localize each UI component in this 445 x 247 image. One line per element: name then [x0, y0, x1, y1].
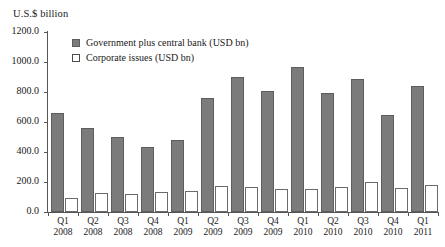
bar-government	[291, 67, 304, 212]
bar-government	[111, 137, 124, 212]
bar-corporate	[95, 193, 108, 212]
bar-government	[141, 147, 154, 212]
x-axis-label: Q32010	[348, 216, 378, 238]
y-axis-tick-label: 800.0	[17, 85, 40, 96]
bar-corporate	[305, 189, 318, 212]
x-axis-label-year: 2008	[48, 227, 78, 238]
x-axis-label-quarter: Q1	[288, 216, 318, 227]
bar-group	[291, 32, 318, 212]
x-axis-label-quarter: Q4	[378, 216, 408, 227]
x-axis-label: Q12010	[288, 216, 318, 238]
bar-corporate	[335, 187, 348, 213]
bar-government	[171, 140, 184, 212]
bar-government	[351, 79, 364, 212]
x-axis-label: Q22010	[318, 216, 348, 238]
bar-chart-figure: U.S.$ billion 0.0200.0400.0600.0800.0100…	[0, 0, 445, 247]
x-axis-label-year: 2008	[108, 227, 138, 238]
legend-item-government: Government plus central bank (USD bn)	[72, 36, 248, 49]
bar-corporate	[425, 185, 438, 212]
bar-corporate	[215, 186, 228, 212]
bar-government	[261, 91, 274, 212]
x-axis-label-year: 2010	[288, 227, 318, 238]
bar-government	[51, 113, 64, 212]
chart-legend: Government plus central bank (USD bn) Co…	[72, 36, 248, 66]
x-axis-label-quarter: Q2	[318, 216, 348, 227]
x-axis-label: Q12009	[168, 216, 198, 238]
x-axis-label-quarter: Q2	[78, 216, 108, 227]
bar-government	[411, 86, 424, 212]
bar-corporate	[155, 192, 168, 212]
bar-government	[321, 93, 334, 212]
x-axis-label-year: 2010	[318, 227, 348, 238]
x-axis-label-year: 2008	[138, 227, 168, 238]
x-axis-label-year: 2009	[198, 227, 228, 238]
legend-item-corporate: Corporate issues (USD bn)	[72, 51, 248, 64]
y-axis-tick-label: 200.0	[17, 175, 40, 186]
x-axis-label-quarter: Q3	[108, 216, 138, 227]
x-axis-label-quarter: Q3	[348, 216, 378, 227]
bar-group	[321, 32, 348, 212]
y-axis-caption: U.S.$ billion	[13, 8, 68, 19]
x-axis-label: Q42009	[258, 216, 288, 238]
y-axis-tick-label: 600.0	[17, 115, 40, 126]
x-axis-label: Q12008	[48, 216, 78, 238]
x-axis-label-quarter: Q1	[168, 216, 198, 227]
bar-government	[231, 77, 244, 212]
bar-group	[381, 32, 408, 212]
x-axis-label-quarter: Q4	[138, 216, 168, 227]
x-axis-label-year: 2010	[348, 227, 378, 238]
x-axis-label: Q42008	[138, 216, 168, 238]
x-axis-line	[47, 212, 438, 213]
x-axis-label: Q22008	[78, 216, 108, 238]
bar-government	[81, 128, 94, 212]
x-axis-tick-mark	[438, 212, 439, 216]
bar-group	[261, 32, 288, 212]
x-axis-label: Q32008	[108, 216, 138, 238]
x-axis-label-year: 2009	[228, 227, 258, 238]
x-axis-label-quarter: Q1	[408, 216, 438, 227]
x-axis-label: Q32009	[228, 216, 258, 238]
x-axis-label-year: 2011	[408, 227, 438, 238]
bar-corporate	[65, 198, 78, 212]
bar-corporate	[275, 189, 288, 212]
y-axis-tick-label: 1200.0	[12, 25, 40, 36]
legend-swatch-corporate-icon	[72, 54, 80, 62]
bar-group	[411, 32, 438, 212]
x-axis-label-year: 2008	[78, 227, 108, 238]
y-axis-tick-label: 1000.0	[12, 55, 40, 66]
legend-label-government: Government plus central bank (USD bn)	[86, 37, 248, 48]
bar-corporate	[365, 182, 378, 212]
legend-swatch-government-icon	[72, 39, 80, 47]
y-axis-tick-label: 400.0	[17, 145, 40, 156]
x-axis-label: Q22009	[198, 216, 228, 238]
x-axis-label-quarter: Q3	[228, 216, 258, 227]
bar-government	[201, 98, 214, 212]
x-axis-label-quarter: Q2	[198, 216, 228, 227]
y-axis-tick-label: 0.0	[27, 205, 40, 216]
x-axis-label: Q42010	[378, 216, 408, 238]
bar-corporate	[125, 194, 138, 212]
x-axis-label-year: 2009	[168, 227, 198, 238]
x-axis-label-year: 2009	[258, 227, 288, 238]
bar-corporate	[245, 187, 258, 212]
x-axis-label: Q12011	[408, 216, 438, 238]
x-axis-label-quarter: Q1	[48, 216, 78, 227]
x-axis-label-year: 2010	[378, 227, 408, 238]
bar-corporate	[185, 191, 198, 212]
x-axis-label-quarter: Q4	[258, 216, 288, 227]
legend-label-corporate: Corporate issues (USD bn)	[86, 52, 194, 63]
bar-corporate	[395, 188, 408, 212]
bar-government	[381, 115, 394, 212]
bar-group	[351, 32, 378, 212]
